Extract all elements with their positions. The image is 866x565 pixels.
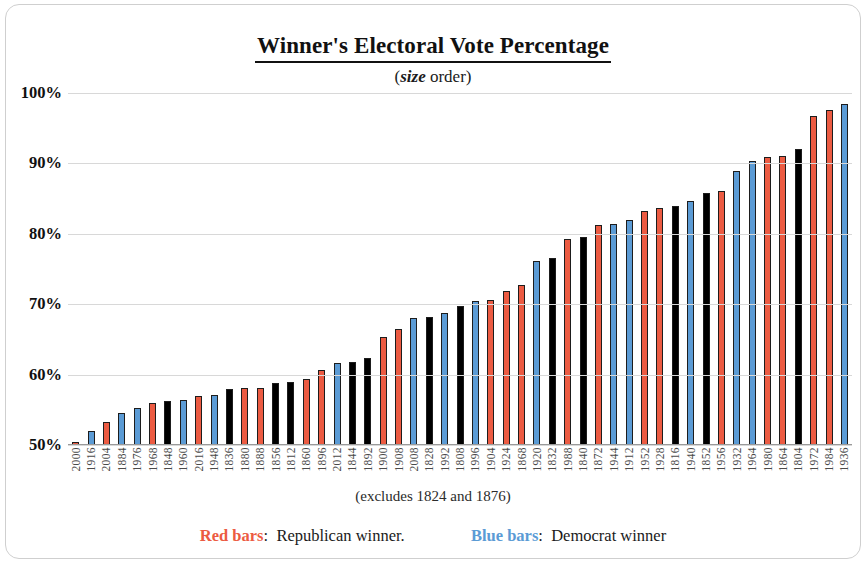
bar[interactable] [672, 206, 679, 445]
bar[interactable] [395, 329, 402, 445]
bar[interactable] [211, 395, 218, 445]
x-label-slot: 1848 [160, 447, 175, 472]
legend-red-separator: : [264, 526, 269, 545]
x-label-slot: 1948 [206, 447, 221, 472]
x-axis-tick-label: 1912 [623, 447, 635, 472]
bar[interactable] [764, 157, 771, 445]
bar[interactable] [241, 388, 248, 445]
bar[interactable] [841, 104, 848, 445]
x-axis-tick-label: 1916 [85, 447, 97, 472]
x-axis-tick-label: 1928 [654, 447, 666, 472]
bar-slot [529, 93, 544, 445]
x-label-slot: 1908 [391, 447, 406, 472]
bar[interactable] [733, 171, 740, 445]
bar-slot [206, 93, 221, 445]
bar[interactable] [656, 208, 663, 445]
bar[interactable] [103, 422, 110, 445]
bar[interactable] [303, 379, 310, 445]
x-label-slot: 1896 [314, 447, 329, 472]
bar[interactable] [88, 431, 95, 445]
bar[interactable] [195, 396, 202, 445]
bar[interactable] [257, 388, 264, 445]
x-axis-tick-label: 1816 [669, 447, 681, 472]
bar[interactable] [718, 191, 725, 445]
x-axis-tick-label: 1900 [377, 447, 389, 472]
x-label-slot: 1960 [176, 447, 191, 472]
bar[interactable] [426, 317, 433, 445]
bar[interactable] [580, 237, 587, 445]
bar[interactable] [779, 156, 786, 445]
bar[interactable] [564, 239, 571, 445]
subtitle-emphasis: size [400, 67, 426, 86]
x-label-slot: 1832 [545, 447, 560, 472]
bar[interactable] [626, 220, 633, 445]
x-label-slot: 1992 [437, 447, 452, 472]
bar[interactable] [118, 413, 125, 445]
bar[interactable] [318, 370, 325, 445]
x-axis-tick-label: 1844 [346, 447, 358, 472]
bar-series [68, 93, 852, 445]
bar[interactable] [826, 110, 833, 445]
bar-slot [468, 93, 483, 445]
bar[interactable] [795, 149, 802, 445]
gridline [68, 375, 852, 376]
x-axis-tick-label: 2000 [70, 447, 82, 472]
bar[interactable] [533, 261, 540, 445]
bar[interactable] [134, 408, 141, 445]
x-axis-tick-label: 1996 [469, 447, 481, 472]
x-label-slot: 1980 [760, 447, 775, 472]
bar-slot [791, 93, 806, 445]
bar[interactable] [518, 285, 525, 446]
bar[interactable] [226, 389, 233, 445]
x-axis-tick-label: 1972 [808, 447, 820, 472]
x-axis-tick-label: 1812 [285, 447, 297, 472]
bar-slot [745, 93, 760, 445]
x-label-slot: 1900 [376, 447, 391, 472]
bar[interactable] [272, 383, 279, 445]
bar-slot [683, 93, 698, 445]
bar-slot [760, 93, 775, 445]
x-axis-tick-label: 1980 [762, 447, 774, 472]
bar[interactable] [687, 201, 694, 445]
bar-slot [637, 93, 652, 445]
x-axis-tick-label: 1944 [608, 447, 620, 472]
bar-slot [237, 93, 252, 445]
bar[interactable] [703, 193, 710, 445]
x-axis-tick-label: 2008 [408, 447, 420, 472]
bar[interactable] [287, 382, 294, 445]
bar[interactable] [472, 301, 479, 445]
x-label-slot: 1924 [499, 447, 514, 472]
x-axis-tick-label: 1864 [777, 447, 789, 472]
bar[interactable] [503, 291, 510, 445]
bar-slot [345, 93, 360, 445]
bar[interactable] [595, 225, 602, 445]
bar-slot [591, 93, 606, 445]
bar[interactable] [641, 211, 648, 445]
bar[interactable] [487, 300, 494, 445]
gridline [68, 234, 852, 235]
bar-slot [514, 93, 529, 445]
bar[interactable] [380, 337, 387, 445]
bar[interactable] [610, 224, 617, 445]
x-axis-tick-label: 1832 [546, 447, 558, 472]
x-label-slot: 1972 [806, 447, 821, 472]
x-label-slot: 1884 [114, 447, 129, 472]
bar-slot [560, 93, 575, 445]
bar[interactable] [164, 401, 171, 445]
bar[interactable] [149, 403, 156, 445]
x-axis-tick-label: 1936 [838, 447, 850, 472]
x-axis-tick-label: 1956 [715, 447, 727, 472]
bar[interactable] [180, 400, 187, 445]
x-axis-tick-label: 2012 [331, 447, 343, 472]
bar[interactable] [364, 358, 371, 445]
bar[interactable] [810, 116, 817, 445]
bar[interactable] [549, 258, 556, 445]
x-label-slot: 1940 [683, 447, 698, 472]
x-axis-tick-label: 1860 [300, 447, 312, 472]
bar-slot [314, 93, 329, 445]
bar[interactable] [441, 313, 448, 445]
x-label-slot: 1976 [130, 447, 145, 472]
y-axis-tick-label: 100% [21, 83, 62, 103]
bar[interactable] [410, 318, 417, 445]
x-axis-tick-label: 1984 [823, 447, 835, 472]
